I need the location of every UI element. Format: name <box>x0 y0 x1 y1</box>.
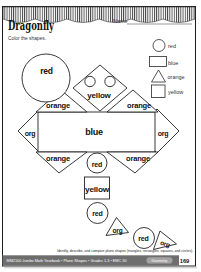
wing-top-right-label: orange <box>127 101 151 110</box>
legend-square <box>152 85 166 98</box>
tail-circle-1-label: red <box>92 161 102 168</box>
subject-badge-label: Geometry <box>152 259 168 263</box>
tail-triangle-1-label: org <box>113 227 123 235</box>
credit-line: MM2100 Jumbo Math Yearbook • Plane Shape… <box>7 259 127 263</box>
instruction-text: Color the shapes. <box>8 35 46 41</box>
tail-circle-3-label: red <box>138 235 148 242</box>
big-circle <box>22 54 70 102</box>
eye-right-circle <box>105 76 115 86</box>
wing-bottom-left-label: orange <box>46 154 70 163</box>
tail-circle-2-label: red <box>92 210 102 217</box>
wing-bottom-right-label: orange <box>126 154 150 163</box>
big-circle-label: red <box>40 66 53 76</box>
name-label: Name <box>113 18 128 24</box>
side-diamond-left-label: org <box>25 130 36 138</box>
legend-circle-label: red <box>168 43 176 49</box>
page-number: 169 <box>180 258 190 264</box>
page-shadow <box>4 267 197 269</box>
skill-statement: Identify, describe, and compare plane sh… <box>57 248 193 253</box>
wing-top-left-label: orange <box>46 101 70 110</box>
head-label: yellow <box>87 91 111 100</box>
worksheet-canvas: Dragonfly Name Color the shapes. red blu… <box>0 0 201 272</box>
tail-square-label: yellow <box>85 185 109 194</box>
body-label: blue <box>85 127 103 137</box>
page-title: Dragonfly <box>8 18 54 33</box>
legend-rectangle <box>150 57 167 67</box>
legend-square-label: yellow <box>168 89 183 95</box>
legend-triangle-label: orange <box>168 74 185 80</box>
eye-left-circle <box>85 76 95 86</box>
legend-circle <box>153 40 165 52</box>
worksheet-page: Dragonfly Name Color the shapes. red blu… <box>0 0 201 272</box>
side-diamond-right-label: org <box>158 130 169 138</box>
legend-rectangle-label: blue <box>168 60 178 66</box>
